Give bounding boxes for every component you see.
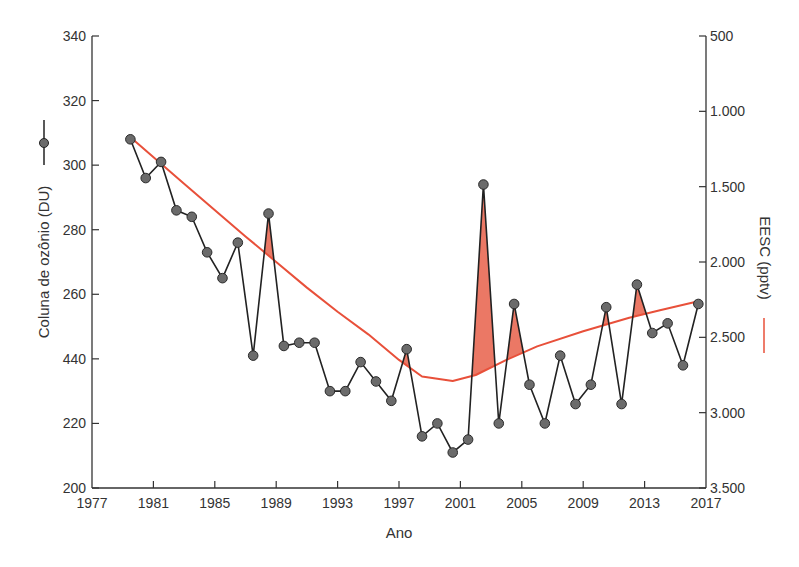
ozone-data-point (433, 419, 443, 429)
excess-area (472, 185, 495, 376)
x-tick-label: 1989 (261, 495, 292, 511)
right-y-tick-label: 500 (710, 28, 734, 44)
ozone-data-point (202, 248, 212, 258)
ozone-data-point (325, 386, 335, 396)
left-y-tick-label: 260 (63, 286, 87, 302)
ozone-data-point (479, 180, 489, 190)
ozone-data-point (141, 173, 151, 183)
x-tick-label: 1981 (138, 495, 169, 511)
right-y-tick-label: 3.000 (710, 405, 745, 421)
ozone-data-point (678, 361, 688, 371)
x-tick-label: 1993 (322, 495, 353, 511)
x-tick-label: 1997 (383, 495, 414, 511)
excess-shading (161, 162, 646, 376)
x-axis-ticks: 1977198119851989199319972001200520092013… (76, 481, 721, 511)
left-y-tick-label: 220 (63, 415, 87, 431)
ozone-data-point (279, 341, 289, 351)
left-y-tick-label: 440 (63, 351, 87, 367)
ozone-data-point (156, 157, 166, 167)
x-tick-label: 2001 (445, 495, 476, 511)
right-y-tick-label: 3.500 (710, 480, 745, 496)
ozone-data-point (617, 399, 627, 409)
left-y-axis-ticks: 340320300280260440220200 (63, 28, 99, 496)
right-y-tick-label: 1.000 (710, 103, 745, 119)
axes (92, 36, 706, 488)
left-y-tick-label: 280 (63, 222, 87, 238)
right-y-tick-label: 1.500 (710, 179, 745, 195)
ozone-data-point (218, 273, 228, 283)
ozone-data-point (540, 419, 550, 429)
left-y-tick-label: 320 (63, 93, 87, 109)
ozone-data-point (126, 135, 136, 145)
ozone-data-point (233, 238, 243, 248)
right-y-tick-label: 2.500 (710, 329, 745, 345)
ozone-line (130, 139, 698, 452)
left-y-tick-label: 340 (63, 28, 87, 44)
ozone-data-point (310, 338, 320, 348)
x-tick-label: 2009 (568, 495, 599, 511)
x-tick-label: 2013 (629, 495, 660, 511)
ozone-data-point (340, 386, 350, 396)
ozone-data-point (264, 209, 274, 219)
ozone-data-point (294, 338, 304, 348)
ozone-data-point (601, 302, 611, 312)
left-y-axis-title: Coluna de ozônio (DU) (35, 186, 52, 339)
ozone-data-point (494, 419, 504, 429)
x-axis-title: Ano (386, 524, 413, 541)
ozone-data-point (387, 396, 397, 406)
ozone-data-point (371, 377, 381, 387)
ozone-data-point (509, 299, 519, 309)
ozone-data-point (417, 432, 427, 442)
right-y-tick-label: 2.000 (710, 254, 745, 270)
ozone-eesc-chart: 1977198119851989199319972001200520092013… (0, 0, 799, 567)
ozone-data-point (586, 380, 596, 390)
ozone-series (126, 135, 704, 458)
ozone-data-point (571, 399, 581, 409)
ozone-data-point (647, 328, 657, 338)
right-y-axis-title: EESC (pptv) (757, 216, 774, 299)
ozone-data-point (172, 206, 182, 216)
left-y-tick-label: 300 (63, 157, 87, 173)
x-tick-label: 1977 (76, 495, 107, 511)
eesc-line (132, 138, 698, 381)
ozone-data-point (356, 357, 366, 367)
x-tick-label: 2005 (506, 495, 537, 511)
ozone-data-point (402, 344, 412, 354)
ozone-data-point (525, 380, 535, 390)
x-tick-label: 2017 (690, 495, 721, 511)
ozone-data-point (694, 299, 704, 309)
eesc-series (132, 138, 698, 381)
ozone-data-point (632, 280, 642, 290)
left-y-tick-label: 200 (63, 480, 87, 496)
ozone-data-point (555, 351, 565, 361)
ozone-data-point (187, 212, 197, 222)
ozone-data-point (463, 435, 473, 445)
ozone-data-point (448, 448, 458, 458)
ozone-legend-marker-icon (40, 120, 49, 165)
ozone-data-point (248, 351, 258, 361)
ozone-data-point (663, 319, 673, 329)
x-tick-label: 1985 (199, 495, 230, 511)
